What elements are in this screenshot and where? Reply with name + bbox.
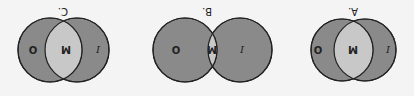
region-o-c: O	[29, 44, 38, 55]
region-m-c: M	[61, 44, 71, 55]
region-m-b: M	[207, 44, 217, 55]
venn-svg: A. I M O B. I M O C. I M O	[0, 0, 414, 96]
region-m-a: M	[348, 44, 358, 55]
venn-diagram-b: B. I M O	[153, 6, 272, 82]
venn-diagram-a: A. I M O	[311, 6, 396, 81]
region-o-b: O	[172, 44, 181, 55]
venn-figure: A. I M O B. I M O C. I M O	[0, 0, 414, 96]
diagram-label-c: C.	[58, 6, 68, 17]
region-o-a: O	[314, 44, 323, 55]
diagram-label-a: A.	[348, 6, 358, 17]
venn-diagram-c: C. I M O	[18, 6, 109, 82]
diagram-label-b: B.	[202, 6, 212, 17]
